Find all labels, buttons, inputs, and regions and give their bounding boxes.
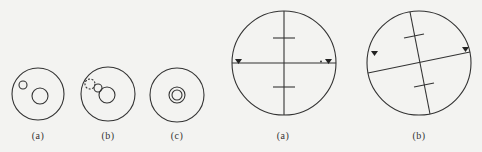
figure-left-c xyxy=(150,68,204,122)
triangle-marker-icon xyxy=(371,51,378,56)
diagram-svg xyxy=(0,0,482,152)
figure-right-a xyxy=(232,11,336,115)
outer-circle xyxy=(12,68,64,120)
dot-marker xyxy=(320,61,322,63)
outer-circle xyxy=(81,67,135,121)
figure-right-b xyxy=(367,11,471,115)
figure-left-b xyxy=(81,67,135,121)
outer-circle xyxy=(150,68,204,122)
triangle-marker-icon xyxy=(462,47,469,52)
caption-left-b: (b) xyxy=(101,130,114,141)
medium-circle xyxy=(169,87,185,103)
medium-circle xyxy=(32,88,48,104)
caption-left-a: (a) xyxy=(32,130,45,141)
caption-right-b: (b) xyxy=(412,130,425,141)
caption-left-c: (c) xyxy=(171,130,184,141)
figure-left-a xyxy=(12,68,64,120)
medium-circle xyxy=(99,87,115,103)
caption-right-a: (a) xyxy=(277,130,290,141)
tilted-vertical-crosshair xyxy=(410,12,430,114)
small-circle xyxy=(19,81,27,89)
small-circle xyxy=(172,90,182,100)
figure-canvas: (a) (b) (c) (a) (b) xyxy=(0,0,482,152)
